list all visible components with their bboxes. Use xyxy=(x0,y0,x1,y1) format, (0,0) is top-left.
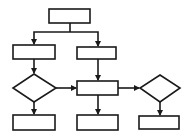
node-bottom-center xyxy=(77,115,118,130)
node-left-decision xyxy=(13,74,56,102)
node-center-main xyxy=(77,81,118,95)
node-bottom-left xyxy=(13,115,55,130)
node-center-process xyxy=(77,47,116,59)
flowchart-svg xyxy=(0,0,190,138)
edge-top-to-center xyxy=(70,32,98,46)
node-left-process xyxy=(13,45,55,59)
node-right-decision xyxy=(140,75,180,102)
node-top xyxy=(49,9,90,23)
flowchart-canvas xyxy=(0,0,190,138)
edge-top-to-left xyxy=(34,32,70,44)
node-bottom-right xyxy=(139,116,179,129)
